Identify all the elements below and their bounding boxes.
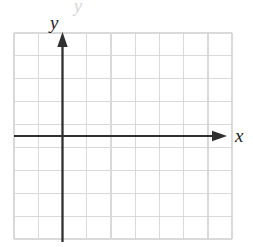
graph-canvas (0, 0, 253, 247)
coordinate-grid-figure: y y x (0, 0, 253, 247)
x-axis-label: x (235, 126, 243, 145)
y-axis-label: y (50, 13, 58, 32)
